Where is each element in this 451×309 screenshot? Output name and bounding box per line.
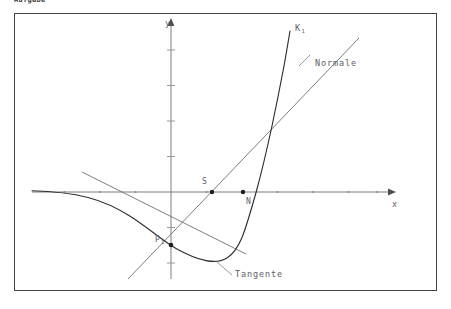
x-axis-arrowhead	[388, 189, 396, 196]
point-p-label-text: P	[155, 235, 161, 244]
header-text: Aufgabe	[14, 0, 74, 4]
normal-label: Normale	[315, 58, 357, 68]
curve-k1	[32, 31, 290, 261]
figure-canvas: y x K1 Normale Tangente S N P1	[14, 13, 437, 291]
figure-page: Aufgabe	[0, 0, 451, 309]
tangent-label-leader	[217, 262, 232, 275]
curve-label: K1	[295, 23, 304, 33]
x-axis-label: x	[392, 199, 398, 209]
normale-label-leader	[299, 55, 310, 66]
point-n-label: N	[246, 197, 252, 206]
point-n	[241, 190, 245, 194]
curve-label-text: K	[295, 23, 301, 33]
curve-label-subscript: 1	[302, 28, 305, 34]
graph-svg	[14, 13, 437, 291]
point-p-label: P1	[155, 235, 164, 244]
tangent-label: Tangente	[235, 269, 283, 279]
point-s	[210, 190, 214, 194]
point-p1	[169, 243, 174, 248]
y-axis-label: y	[165, 18, 171, 28]
point-p-label-subscript: 1	[161, 239, 164, 245]
point-s-label: S	[202, 177, 208, 186]
